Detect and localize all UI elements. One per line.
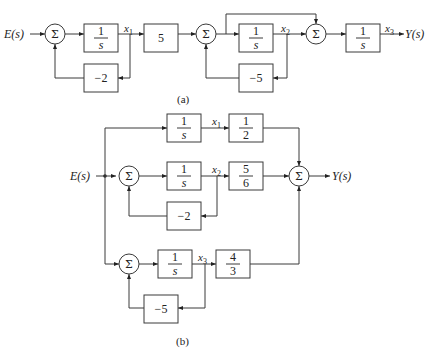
integrator-block-b1: 1 s <box>167 114 201 142</box>
svg-text:s: s <box>254 38 259 52</box>
summing-junction-a3: Σ <box>306 24 326 44</box>
svg-text:Σ: Σ <box>125 258 133 271</box>
svg-text:Σ: Σ <box>312 28 320 41</box>
feedback-block-b3: −5 <box>144 295 178 323</box>
gain-block-5: 5 <box>144 24 178 52</box>
signal-x1-a: x1 <box>123 22 133 37</box>
svg-text:s: s <box>182 176 187 190</box>
integrator-block-a1: 1 s <box>84 24 118 52</box>
diagram-b: E(s) 1 s x1 1 2 Σ 1 <box>69 114 351 348</box>
svg-text:1: 1 <box>181 114 187 128</box>
svg-text:4: 4 <box>230 250 236 264</box>
svg-text:1: 1 <box>181 162 187 176</box>
output-label-b: Y(s) <box>332 169 351 183</box>
svg-text:1: 1 <box>360 24 366 38</box>
svg-text:s: s <box>361 38 366 52</box>
svg-text:Σ: Σ <box>51 28 59 41</box>
svg-text:s: s <box>182 128 187 142</box>
summing-junction-a2: Σ <box>196 24 216 44</box>
feedback-block-a2: −5 <box>239 64 273 92</box>
summing-junction-a1: Σ <box>45 24 65 44</box>
svg-text:1: 1 <box>172 250 178 264</box>
svg-text:−2: −2 <box>178 209 191 223</box>
integrator-block-a2: 1 s <box>239 24 273 52</box>
svg-text:Σ: Σ <box>295 170 303 183</box>
feedback-block-a1: −2 <box>84 64 118 92</box>
integrator-block-b3: 1 s <box>158 250 192 278</box>
gain-block-b2: 5 6 <box>229 162 263 190</box>
signal-x3-a: x3 <box>384 22 394 37</box>
summing-junction-b2: Σ <box>119 166 139 186</box>
svg-text:−5: −5 <box>250 71 263 85</box>
svg-text:3: 3 <box>230 264 236 278</box>
integrator-block-a3: 1 s <box>346 24 380 52</box>
svg-text:Σ: Σ <box>125 170 133 183</box>
block-diagram: E(s) Σ 1 s x1 5 −2 <box>0 0 432 355</box>
svg-text:Σ: Σ <box>202 28 210 41</box>
svg-text:−5: −5 <box>155 302 168 316</box>
svg-text:1: 1 <box>98 24 104 38</box>
svg-text:1: 1 <box>243 114 249 128</box>
svg-text:s: s <box>173 264 178 278</box>
svg-text:−2: −2 <box>95 71 108 85</box>
gain-block-b1: 1 2 <box>229 114 263 142</box>
summing-junction-b3: Σ <box>119 254 139 274</box>
caption-a: (a) <box>177 93 190 106</box>
input-label-b: E(s) <box>69 169 90 183</box>
signal-x2-a: x2 <box>280 22 290 37</box>
input-label-a: E(s) <box>3 27 24 41</box>
feedback-block-b2: −2 <box>167 202 201 230</box>
svg-text:6: 6 <box>243 176 249 190</box>
diagram-a: E(s) Σ 1 s x1 5 −2 <box>3 14 424 106</box>
svg-text:5: 5 <box>243 162 249 176</box>
gain-block-b3: 4 3 <box>216 250 250 278</box>
integrator-block-b2: 1 s <box>167 162 201 190</box>
svg-text:s: s <box>99 38 104 52</box>
svg-text:5: 5 <box>158 31 164 45</box>
caption-b: (b) <box>176 335 189 348</box>
svg-text:1: 1 <box>253 24 259 38</box>
output-label-a: Y(s) <box>405 27 424 41</box>
svg-text:2: 2 <box>243 128 249 142</box>
summing-junction-b-out: Σ <box>289 166 309 186</box>
